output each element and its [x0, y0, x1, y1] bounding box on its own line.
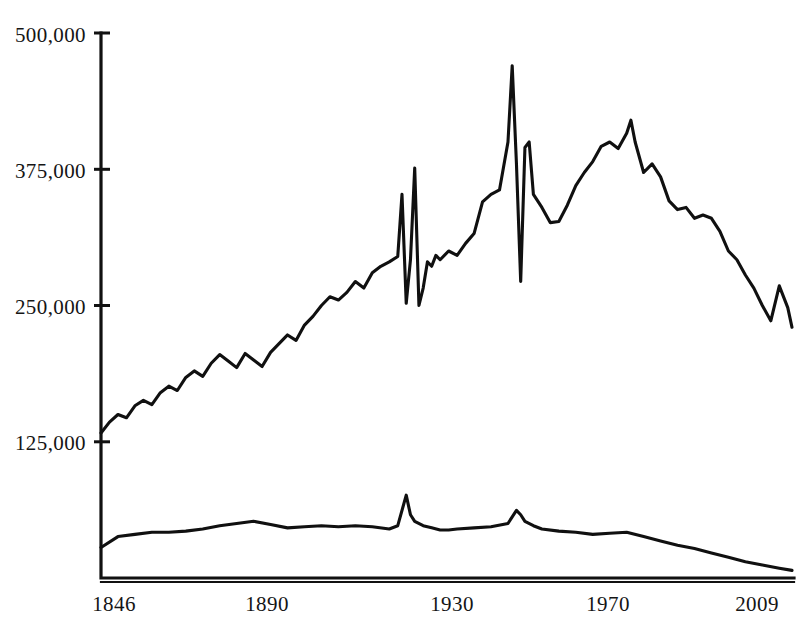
y-tick-label-500000: 500,000 — [0, 23, 86, 48]
x-tick-label-1846: 1846 — [92, 592, 136, 617]
series-line-lower — [101, 495, 792, 570]
y-tick-label-125000: 125,000 — [0, 431, 86, 456]
y-tick-label-375000: 375,000 — [0, 159, 86, 184]
chart-canvas — [0, 0, 798, 637]
chart-figure: 500,000 375,000 250,000 125,000 1846 189… — [0, 0, 798, 637]
x-tick-label-1930: 1930 — [430, 592, 474, 617]
x-tick-label-1890: 1890 — [245, 592, 289, 617]
series-line-upper — [101, 66, 792, 433]
y-tick-label-250000: 250,000 — [0, 295, 86, 320]
x-tick-label-1970: 1970 — [586, 592, 630, 617]
chart-axes — [101, 33, 794, 578]
x-tick-label-2009: 2009 — [735, 592, 779, 617]
